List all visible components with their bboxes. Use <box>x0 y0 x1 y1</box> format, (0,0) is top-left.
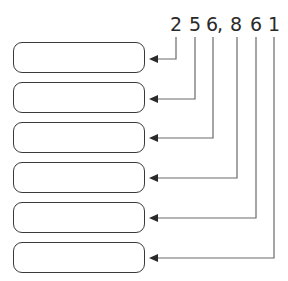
connector-arrows <box>0 0 288 281</box>
arrowhead-icon <box>149 95 158 103</box>
arrowhead-icon <box>149 214 158 222</box>
arrowhead-icon <box>149 55 158 63</box>
connector-arrow-3 <box>149 37 213 142</box>
arrowhead-icon <box>149 174 158 182</box>
arrowhead-icon <box>149 254 158 262</box>
connector-arrow-2 <box>149 37 195 103</box>
arrowhead-icon <box>149 134 158 142</box>
connector-arrow-5 <box>149 37 256 222</box>
connector-arrow-1 <box>149 37 176 63</box>
connector-arrow-6 <box>149 37 274 262</box>
